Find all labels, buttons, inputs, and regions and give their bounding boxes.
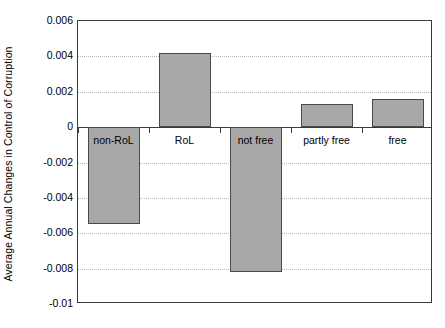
- plot-area: non-RoLRoLnot freepartly freefree: [77, 20, 432, 303]
- y-axis-tick-label: 0: [18, 120, 73, 132]
- bar-free: [372, 99, 424, 127]
- y-axis-tick-label: -0.008: [18, 262, 73, 274]
- category-label: non-RoL: [93, 134, 133, 146]
- x-axis-tick: [220, 127, 221, 133]
- bar-partly-free: [301, 104, 353, 127]
- bar-rol: [159, 53, 211, 127]
- y-axis-tick-labels: 0.0060.0040.0020-0.002-0.004-0.006-0.008…: [18, 0, 73, 328]
- gridline: [78, 92, 431, 93]
- category-label: not free: [238, 134, 274, 146]
- bar-chart: Average Annual Changes in Control of Cor…: [0, 0, 445, 328]
- y-axis-tick-label: -0.002: [18, 156, 73, 168]
- y-axis-tick-label: 0.004: [18, 49, 73, 61]
- x-axis-tick: [78, 127, 79, 133]
- x-axis-tick: [362, 127, 363, 133]
- y-axis-title: Average Annual Changes in Control of Cor…: [0, 0, 16, 328]
- category-label: free: [388, 134, 406, 146]
- y-axis-tick-label: -0.004: [18, 191, 73, 203]
- y-axis-tick-label: 0.006: [18, 14, 73, 26]
- y-axis-tick-label: -0.006: [18, 226, 73, 238]
- x-axis-tick: [291, 127, 292, 133]
- gridline: [78, 56, 431, 57]
- y-axis-tick-label: -0.01: [18, 297, 73, 309]
- category-label: partly free: [303, 134, 350, 146]
- category-label: RoL: [175, 134, 194, 146]
- y-axis-tick-label: 0.002: [18, 85, 73, 97]
- bar-not-free: [230, 127, 282, 272]
- x-axis-tick: [149, 127, 150, 133]
